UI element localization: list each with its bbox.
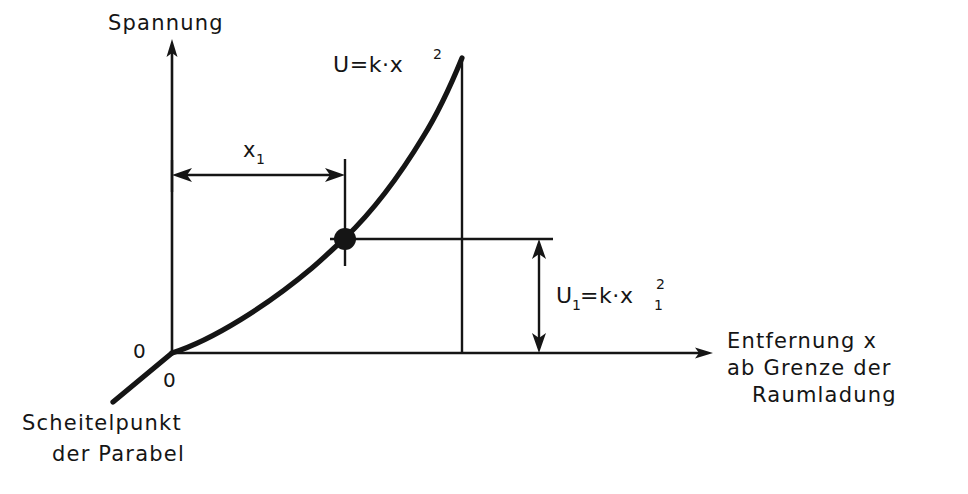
u1-equation-rest-subscript: 1 xyxy=(654,297,663,313)
x-axis-label-group: Entfernung x ab Grenze der Raumladung xyxy=(727,329,897,407)
u1-dimension-group xyxy=(532,239,546,353)
marked-point-dot xyxy=(334,228,356,250)
parabola-curve xyxy=(172,58,462,353)
axis-group xyxy=(167,39,714,359)
x-axis-label-line1: Entfernung x xyxy=(727,329,877,353)
parabola-diagram: Spannung U=k·x 2 x 1 U 1 =k·x 1 2 0 0 En… xyxy=(0,0,968,494)
x-axis-label-line2: ab Grenze der xyxy=(727,356,892,380)
vertex-caption-line2: der Parabel xyxy=(52,442,185,466)
u1-equation-main: U xyxy=(556,283,573,308)
diagram-page: Spannung U=k·x 2 x 1 U 1 =k·x 1 2 0 0 En… xyxy=(0,0,968,494)
vertex-caption-line1: Scheitelpunkt xyxy=(22,411,182,435)
origin-label-left: 0 xyxy=(133,339,146,363)
u1-equation-rest: =k·x xyxy=(580,283,634,308)
origin-label-below: 0 xyxy=(163,368,176,392)
u1-equation-rest-exponent: 2 xyxy=(656,276,665,292)
curve-equation-main: U=k·x xyxy=(333,52,403,77)
x1-label-main: x xyxy=(243,138,255,162)
x1-label-subscript: 1 xyxy=(256,151,265,167)
vertex-caption-group: Scheitelpunkt der Parabel xyxy=(22,411,185,466)
x-axis-label-line3: Raumladung xyxy=(752,383,897,407)
u1-equation-label: U 1 =k·x 1 2 xyxy=(556,276,665,313)
x1-dimension-label: x 1 xyxy=(243,138,265,167)
curve-equation-exponent: 2 xyxy=(433,46,442,62)
curve-equation-label: U=k·x 2 xyxy=(333,46,442,77)
y-axis-label: Spannung xyxy=(108,11,224,35)
parabola-curve-group xyxy=(113,58,462,402)
